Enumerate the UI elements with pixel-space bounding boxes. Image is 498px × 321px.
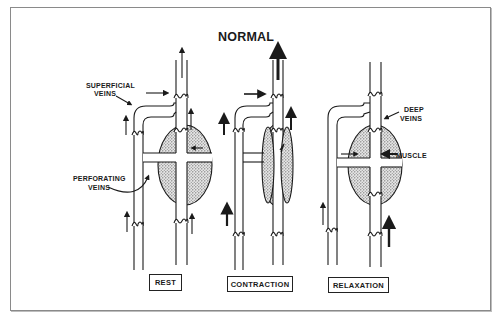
panel-label-relaxation: RELAXATION bbox=[328, 277, 389, 293]
label-deep-veins-line2: VEINS bbox=[400, 115, 422, 122]
panel-relaxation bbox=[323, 62, 402, 267]
panel-contraction bbox=[224, 50, 293, 270]
venous-pump-diagram: NORMAL bbox=[0, 0, 498, 321]
panel-label-rest: REST bbox=[149, 274, 182, 291]
label-superficial-veins-line1: SUPERFICIAL bbox=[86, 82, 135, 89]
label-superficial-veins-line2: VEINS bbox=[94, 90, 116, 97]
diagram-title: NORMAL bbox=[218, 30, 274, 44]
label-deep-veins-line1: DEEP bbox=[404, 106, 424, 113]
panel-label-contraction: CONTRACTION bbox=[227, 276, 293, 292]
label-perforating-veins-line1: PERFORATING bbox=[73, 175, 126, 182]
label-perforating-veins-line2: VEINS bbox=[88, 184, 110, 191]
label-muscle: MUSCLE bbox=[396, 152, 427, 159]
